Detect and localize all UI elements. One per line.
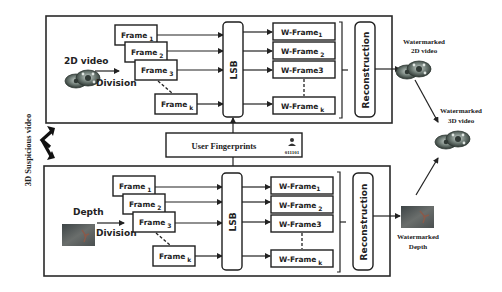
- bottom-panel-depth: Depth Division Frame1 Frame2 Frame3 Fram…: [44, 166, 390, 276]
- frame-1: Frame1: [113, 176, 155, 196]
- frame-3: Frame3: [135, 60, 177, 80]
- user-fingerprints-box: User Fingerprints 011101: [166, 133, 302, 157]
- fingerprint-bits: 011101: [285, 150, 300, 155]
- svg-text:2D video: 2D video: [411, 47, 438, 55]
- w-frame-1: W-Frame1: [271, 177, 333, 194]
- output-watermarked-depth: Watermarked Depth: [397, 206, 439, 251]
- w-frame-3: W-Frame3: [273, 61, 335, 78]
- frame-2: Frame2: [125, 42, 167, 62]
- svg-text:W-Frame3: W-Frame3: [281, 66, 324, 75]
- frame-3: Frame3: [133, 212, 175, 232]
- svg-text:Watermarked: Watermarked: [403, 38, 445, 46]
- svg-text:User Fingerprints: User Fingerprints: [192, 141, 257, 151]
- svg-text:Reconstruction: Reconstruction: [359, 184, 369, 261]
- lsb-block-top: LSB: [223, 22, 243, 117]
- depth-map-icon: [401, 206, 434, 228]
- svg-text:LSB: LSB: [229, 60, 239, 79]
- svg-text:W-Frame1: W-Frame1: [279, 182, 321, 192]
- svg-text:Depth: Depth: [409, 243, 427, 251]
- arrow-2d-to-3d: [415, 80, 438, 122]
- w-frame-1: W-Frame1: [273, 23, 335, 40]
- division-label: Division: [96, 78, 137, 88]
- svg-text:LSB: LSB: [228, 212, 238, 231]
- division-label: Division: [96, 228, 137, 238]
- reconstruction-block-top: Reconstruction: [355, 22, 375, 117]
- input-label-depth: Depth: [73, 207, 104, 217]
- svg-text:W-Frame3: W-Frame3: [279, 220, 322, 229]
- svg-text:3D video: 3D video: [448, 117, 475, 125]
- side-label-3d-suspicious-video: 3D Suspicious video: [23, 114, 33, 186]
- svg-text:W-Frame1: W-Frame1: [281, 28, 323, 38]
- lsb-block-bottom: LSB: [222, 173, 242, 270]
- depth-map-icon: [62, 224, 95, 246]
- w-frame-3: W-Frame3: [271, 215, 333, 232]
- reconstruction-block-bottom: Reconstruction: [353, 173, 373, 270]
- svg-text:Watermarked: Watermarked: [440, 107, 482, 115]
- film-reel-icon: [396, 61, 431, 79]
- w-frame-2: W-Frame2: [273, 42, 335, 59]
- svg-text:Reconstruction: Reconstruction: [361, 32, 371, 109]
- svg-text:Watermarked: Watermarked: [397, 233, 439, 241]
- output-watermarked-3d-video: Watermarked 3D video: [435, 107, 482, 149]
- double-arrow-icon: [42, 126, 55, 160]
- bottom-panel-border: [44, 166, 390, 276]
- w-frame-k: W-Framek: [273, 97, 335, 114]
- frame-2: Frame2: [123, 194, 165, 214]
- output-watermarked-2d-video: Watermarked 2D video: [396, 38, 445, 79]
- frame-k: Framek: [153, 246, 195, 266]
- input-label-2d-video: 2D video: [64, 56, 109, 66]
- frame-k: Framek: [155, 94, 197, 114]
- film-reel-icon: [435, 131, 470, 149]
- top-panel-2d-video: 2D video Division Frame1 Frame2 Frame3 F…: [46, 16, 392, 123]
- w-frame-2: W-Frame2: [271, 196, 333, 213]
- arrow-depth-to-3d: [416, 158, 438, 195]
- watermarking-diagram: 2D video Division Frame1 Frame2 Frame3 F…: [0, 0, 502, 292]
- w-frame-k: W-Framek: [271, 250, 333, 267]
